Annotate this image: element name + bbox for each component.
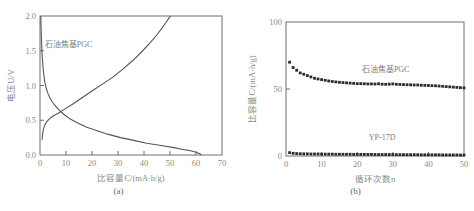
y-axis-title: 比容量C/(mA·h/g) [247, 55, 257, 122]
panel-b-caption: (b) [237, 186, 474, 196]
x-tick-label: 10 [62, 158, 71, 168]
data-point [324, 153, 327, 156]
y-tick-label: 0 [278, 151, 282, 161]
data-point [299, 152, 302, 155]
data-point [431, 84, 434, 87]
data-point [310, 153, 313, 156]
data-point [370, 153, 373, 156]
data-point [374, 83, 377, 86]
data-point [388, 153, 391, 156]
data-point [334, 81, 337, 84]
data-point [306, 74, 309, 77]
chart-a: 0102030405060700.00.51.01.52.0比容量C/(mA·h… [0, 0, 237, 211]
data-point [413, 84, 416, 87]
data-point [402, 153, 405, 156]
data-point [352, 82, 355, 85]
y-tick-label: 2.0 [25, 11, 36, 21]
data-point [431, 153, 434, 156]
data-point [370, 83, 373, 86]
data-point [438, 153, 441, 156]
data-point [342, 81, 345, 84]
plot-annotation: 石油焦基PGC [362, 64, 410, 74]
data-point [455, 86, 458, 89]
data-point [295, 152, 298, 155]
x-axis-title: 循环次数n [355, 174, 396, 184]
y-tick-label: 50 [274, 84, 283, 94]
data-point [331, 80, 334, 83]
data-point [356, 82, 359, 85]
data-point [306, 152, 309, 155]
data-point [409, 83, 412, 86]
y-tick-label: 1.0 [25, 81, 36, 91]
plot-annotation: YP-17D [369, 133, 396, 142]
data-point [302, 152, 305, 155]
data-point [445, 85, 448, 88]
x-axis-title: 比容量C/(mA·h/g) [97, 173, 164, 183]
data-point [363, 153, 366, 156]
data-point [427, 84, 430, 87]
data-point [416, 84, 419, 87]
data-point [302, 73, 305, 76]
data-point [399, 153, 402, 156]
data-point [292, 66, 295, 69]
plot-frame [40, 16, 222, 155]
data-point [349, 82, 352, 85]
figure-container: 0102030405060700.00.51.01.52.0比容量C/(mA·h… [0, 0, 474, 211]
data-point [445, 154, 448, 157]
data-point [416, 153, 419, 156]
panel-a: 0102030405060700.00.51.01.52.0比容量C/(mA·h… [0, 0, 237, 211]
y-tick-label: 0.0 [25, 150, 36, 160]
data-point [395, 153, 398, 156]
data-point [363, 82, 366, 85]
x-tick-label: 60 [192, 158, 201, 168]
data-point [391, 153, 394, 156]
data-point [413, 153, 416, 156]
data-point [384, 153, 387, 156]
data-point [299, 72, 302, 75]
data-point [320, 78, 323, 81]
data-point [345, 153, 348, 156]
data-point [459, 154, 462, 157]
x-tick-label: 10 [317, 159, 326, 169]
data-point [381, 153, 384, 156]
y-tick-label: 100 [269, 17, 282, 27]
data-point [377, 82, 380, 85]
data-point [395, 83, 398, 86]
data-point [320, 153, 323, 156]
data-point [327, 80, 330, 83]
data-point [288, 61, 291, 64]
data-point [317, 153, 320, 156]
data-point [338, 81, 341, 84]
y-axis-title: 电压U/V [6, 68, 16, 102]
data-point [406, 83, 409, 86]
x-tick-label: 40 [424, 159, 433, 169]
data-point [388, 83, 391, 86]
data-point [349, 153, 352, 156]
data-point [384, 83, 387, 86]
data-point [292, 152, 295, 155]
data-point [391, 83, 394, 86]
data-point [452, 154, 455, 157]
data-point [402, 83, 405, 86]
data-point [420, 84, 423, 87]
curve-discharge [41, 16, 201, 155]
data-point [448, 154, 451, 157]
data-point [448, 85, 451, 88]
data-point [441, 85, 444, 88]
data-point [352, 153, 355, 156]
data-point [334, 153, 337, 156]
data-point [406, 153, 409, 156]
plot-annotation: 石油焦基PGC [45, 39, 93, 49]
data-point [342, 153, 345, 156]
x-tick-label: 0 [284, 159, 288, 169]
data-point [356, 153, 359, 156]
data-point [338, 153, 341, 156]
y-tick-label: 0.5 [25, 115, 36, 125]
data-point [331, 153, 334, 156]
data-point [359, 153, 362, 156]
data-point [434, 84, 437, 87]
chart-b: 01020304050050100循环次数n比容量C/(mA·h/g)石油焦基P… [237, 0, 474, 211]
data-point [324, 79, 327, 82]
data-point [327, 153, 330, 156]
data-point [295, 69, 298, 72]
